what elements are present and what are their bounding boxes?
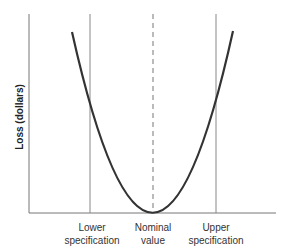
upper-spec-label: Upper specification — [171, 221, 261, 247]
loss-function-diagram — [0, 0, 287, 252]
y-axis-label: Loss (dollars) — [14, 84, 25, 150]
upper-spec-label-line2: specification — [171, 234, 261, 247]
upper-spec-label-line1: Upper — [171, 221, 261, 234]
